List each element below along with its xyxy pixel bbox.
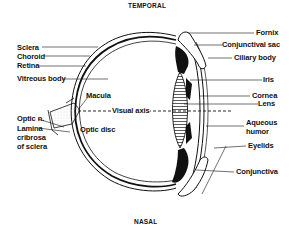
label-conjunctiva: Conjunctiva <box>236 168 278 176</box>
label-ciliary-body: Ciliary body <box>234 54 276 62</box>
label-iris: Iris <box>263 76 274 84</box>
label-vitreous-body: Vitreous body <box>17 75 66 83</box>
label-macula: Macula <box>86 92 111 100</box>
label-visual-axis: Visual axis <box>112 107 150 115</box>
label-of-sclera: of sclera <box>17 143 47 151</box>
label-fornix: Fornix <box>256 29 278 37</box>
label-retina: Retina <box>17 62 39 70</box>
temporal-label: TEMPORAL <box>128 2 166 9</box>
label-sclera: Sclera <box>17 44 39 52</box>
label-cribrosa: cribrosa <box>17 134 46 142</box>
lens <box>173 72 188 148</box>
label-humor: humor <box>246 128 269 136</box>
label-eyelids: Eyelids <box>248 142 274 150</box>
label-aqueous: Aqueous <box>246 119 277 127</box>
label-lens: Lens <box>258 100 275 108</box>
label-lamina: Lamina <box>17 125 43 133</box>
label-conjunctival-sac: Conjunctival sac <box>222 41 280 49</box>
label-choroid: Choroid <box>17 53 45 61</box>
label-optic-n: Optic n. <box>17 115 44 123</box>
label-optic-disc: Optic disc <box>80 126 115 134</box>
nasal-label: NASAL <box>134 218 157 225</box>
